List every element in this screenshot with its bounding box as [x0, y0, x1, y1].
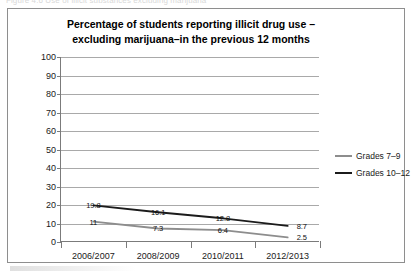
x-tick-label: 2012/2013 [266, 251, 309, 261]
x-tick-mark [61, 241, 62, 248]
data-point-label: 8.7 [297, 221, 307, 230]
x-tick-mark [255, 241, 256, 248]
data-point-label: 6.4 [218, 226, 228, 235]
x-tick-label: 2008/2009 [137, 251, 180, 261]
y-tick-label: 60 [46, 126, 56, 136]
chart-legend: Grades 7–9Grades 10–12 [335, 147, 401, 181]
data-point-label: 11 [90, 217, 98, 226]
data-point-label: 7.3 [153, 224, 163, 233]
x-tick-mark [191, 241, 192, 248]
scan-caption-fragment: Figure 4.6 Use of illicit substances exc… [6, 0, 266, 5]
legend-label: Grades 7–9 [356, 151, 400, 161]
x-tick-mark [320, 241, 321, 248]
y-tick-label: 40 [46, 163, 56, 173]
legend-swatch [335, 172, 352, 174]
y-tick-label: 70 [46, 108, 56, 118]
x-tick-label: 2010/2011 [202, 251, 244, 261]
data-point-label: 2.5 [297, 233, 307, 242]
legend-item: Grades 7–9 [335, 147, 401, 164]
y-tick-label: 10 [46, 219, 56, 229]
series-line [93, 205, 287, 226]
legend-item: Grades 10–12 [335, 164, 401, 181]
y-tick-label: 50 [46, 145, 56, 155]
data-point-label: 16.1 [151, 208, 165, 217]
y-tick-label: 100 [41, 52, 56, 62]
legend-label: Grades 10–12 [356, 168, 410, 178]
scan-artifact [10, 266, 190, 271]
plot-wrapper: 0102030405060708090100 2006/20072008/200… [8, 9, 404, 262]
y-tick-label: 30 [46, 182, 56, 192]
figure-frame: Percentage of students reporting illicit… [7, 8, 405, 263]
legend-swatch [335, 155, 352, 157]
x-tick-mark [126, 241, 127, 248]
data-point-label: 19.8 [86, 201, 100, 210]
y-tick-label: 90 [46, 71, 56, 81]
y-tick-label: 20 [46, 200, 56, 210]
plot-area: 0102030405060708090100 2006/20072008/200… [60, 57, 319, 242]
x-tick-label: 2006/2007 [72, 251, 115, 261]
series-line [93, 222, 287, 238]
y-tick-label: 0 [51, 237, 56, 247]
y-tick-label: 80 [46, 89, 56, 99]
data-point-label: 12.8 [216, 214, 230, 223]
series-lines [61, 57, 320, 242]
